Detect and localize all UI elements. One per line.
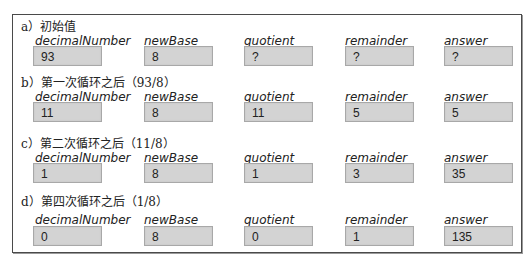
remainder-value: ?	[345, 46, 414, 66]
newbase-value: 8	[144, 226, 213, 246]
newbase-value: 8	[144, 102, 213, 122]
quotient-value: 0	[244, 226, 313, 246]
decimalnumber-value: 11	[33, 102, 102, 122]
remainder-value: 5	[345, 102, 414, 122]
quotient-value: 11	[244, 102, 313, 122]
newbase-value: 8	[144, 163, 213, 183]
step-a-label: a）初始值	[21, 20, 76, 34]
decimalnumber-value: 93	[33, 46, 102, 66]
step-d-label: d）第四次循环之后（1/8）	[21, 195, 168, 209]
quotient-value: ?	[244, 46, 313, 66]
answer-value: 5	[444, 102, 513, 122]
step-b-label: b）第一次循环之后（93/8）	[21, 76, 176, 90]
newbase-value: 8	[144, 46, 213, 66]
answer-value: ?	[444, 46, 513, 66]
decimalnumber-value: 0	[33, 226, 102, 246]
trace-diagram-frame: a）初始值 decimalNumber newBase quotient rem…	[12, 14, 522, 253]
decimalnumber-value: 1	[33, 163, 102, 183]
answer-value: 35	[444, 163, 513, 183]
answer-value: 135	[444, 226, 513, 246]
step-c-label: c）第二次循环之后（11/8）	[21, 137, 175, 151]
remainder-value: 3	[345, 163, 414, 183]
remainder-value: 1	[345, 226, 414, 246]
quotient-value: 1	[244, 163, 313, 183]
